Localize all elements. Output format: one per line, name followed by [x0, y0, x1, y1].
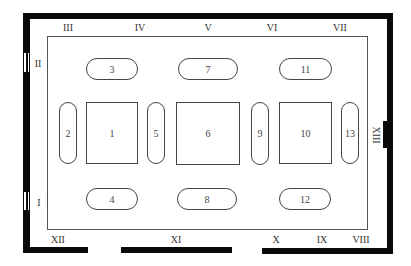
- window-ii: [23, 52, 30, 73]
- item-9-label: 9: [258, 128, 263, 139]
- item-6: 6: [176, 102, 240, 165]
- item-6-label: 6: [206, 128, 211, 139]
- wall-label-xii: XII: [51, 235, 65, 245]
- item-10-label: 10: [301, 128, 311, 139]
- item-7: 7: [178, 58, 238, 80]
- wall-label-x: X: [272, 235, 279, 245]
- wall-label-v: V: [204, 23, 211, 33]
- wall-label-xiii: XIII: [371, 126, 381, 143]
- wall-label-iv: IV: [135, 23, 146, 33]
- item-10: 10: [279, 102, 332, 164]
- bottom-wall-segment-right: [262, 248, 393, 254]
- bottom-wall-segment-left: [23, 247, 88, 253]
- item-5-label: 5: [154, 128, 159, 139]
- wall-label-iii: III: [63, 23, 73, 33]
- item-3: 3: [86, 58, 138, 80]
- top-wall: [23, 13, 393, 19]
- item-1: 1: [86, 102, 138, 164]
- item-4: 4: [86, 188, 138, 210]
- item-8: 8: [177, 188, 237, 210]
- wall-label-viii: VIII: [352, 235, 369, 245]
- right-wall-pillar: [383, 121, 388, 148]
- left-wall: [23, 13, 30, 253]
- wall-label-i: I: [37, 198, 40, 208]
- wall-label-ii: II: [35, 59, 42, 69]
- wall-label-vi: VI: [267, 23, 278, 33]
- item-7-label: 7: [206, 64, 211, 75]
- item-13-label: 13: [345, 128, 355, 139]
- item-12: 12: [279, 188, 331, 210]
- item-3-label: 3: [110, 64, 115, 75]
- bottom-wall-segment-middle: [121, 247, 232, 253]
- item-11-label: 11: [301, 64, 311, 75]
- item-11: 11: [279, 58, 332, 80]
- item-2-label: 2: [66, 128, 71, 139]
- item-1-label: 1: [110, 128, 115, 139]
- item-9: 9: [251, 102, 269, 165]
- wall-label-vii: VII: [333, 23, 347, 33]
- window-i: [23, 191, 30, 211]
- item-13: 13: [341, 102, 359, 164]
- item-2: 2: [59, 102, 77, 164]
- item-4-label: 4: [110, 194, 115, 205]
- wall-label-ix: IX: [317, 235, 328, 245]
- item-5: 5: [147, 102, 165, 164]
- item-12-label: 12: [300, 194, 310, 205]
- wall-label-xi: XI: [171, 235, 182, 245]
- item-8-label: 8: [205, 194, 210, 205]
